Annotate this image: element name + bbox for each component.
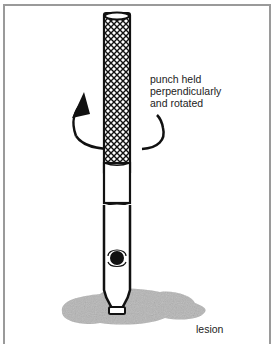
punch-blade [104, 205, 130, 314]
rotation-annotation: punch held perpendicularly and rotated [150, 73, 260, 109]
punch-handle [104, 13, 130, 206]
rotation-line-3: and rotated [150, 97, 260, 109]
lesion-shape [62, 289, 206, 325]
rotation-line-1: punch held [150, 73, 260, 85]
lesion-label: lesion [196, 323, 223, 335]
rotation-line-2: perpendicularly [150, 85, 260, 97]
